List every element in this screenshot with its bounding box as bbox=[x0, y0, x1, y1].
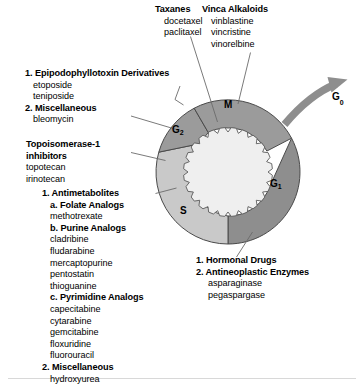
topoisomerase-heading-line1: Topoisomerase-1 bbox=[26, 139, 100, 151]
folate-drug-0: methotrexate bbox=[42, 211, 144, 223]
s-misc-drug-0: hydroxyurea bbox=[42, 374, 144, 385]
vinca-drug-1: vincristine bbox=[202, 27, 268, 39]
leader-vinca bbox=[238, 53, 251, 105]
epipodophyllotoxin-drug-0: etoposide bbox=[25, 80, 169, 92]
phase-label-g1: G1 bbox=[270, 178, 282, 189]
leader-bracket-g2 bbox=[175, 86, 184, 105]
phase-label-g2: G2 bbox=[172, 124, 184, 135]
phase-label-s: S bbox=[180, 205, 187, 216]
callout-taxanes: Taxanes docetaxel paclitaxel bbox=[155, 4, 202, 39]
enzyme-drug-0: asparaginase bbox=[196, 278, 309, 290]
purine-analogs-heading: b. Purine Analogs bbox=[42, 223, 144, 235]
pyrimidine-drug-3: floxuridine bbox=[42, 339, 144, 351]
callout-s-phase: 1. Antimetabolites a. Folate Analogs met… bbox=[42, 188, 144, 385]
purine-drug-4: thioguanine bbox=[42, 281, 144, 293]
g2-misc-drug-0: bleomycin bbox=[25, 114, 169, 126]
pyrimidine-drug-2: gemcitabine bbox=[42, 327, 144, 339]
taxanes-drug-1: paclitaxel bbox=[155, 27, 202, 39]
purine-drug-2: mercaptopurine bbox=[42, 258, 144, 270]
g2-misc-heading: 2. Miscellaneous bbox=[25, 103, 169, 115]
antimetabolites-heading: 1. Antimetabolites bbox=[42, 188, 144, 200]
epipodophyllotoxin-heading: 1. Epipodophyllotoxin Derivatives bbox=[25, 68, 169, 80]
vinca-heading: Vinca Alkaloids bbox=[202, 4, 268, 16]
hormonal-drugs-heading: 1. Hormonal Drugs bbox=[196, 255, 309, 267]
vinca-drug-2: vinorelbine bbox=[202, 39, 268, 51]
s-misc-heading: 2. Miscellaneous bbox=[42, 362, 144, 374]
enzyme-drug-1: pegaspargase bbox=[196, 290, 309, 302]
taxanes-drug-0: docetaxel bbox=[155, 16, 202, 28]
epipodophyllotoxin-drug-1: teniposide bbox=[25, 91, 169, 103]
callout-g2-group: 1. Epipodophyllotoxin Derivatives etopos… bbox=[25, 68, 169, 126]
pyrimidine-drug-1: cytarabine bbox=[42, 316, 144, 328]
purine-drug-0: cladribine bbox=[42, 234, 144, 246]
phase-label-g0: G0 bbox=[332, 91, 344, 104]
taxanes-heading: Taxanes bbox=[155, 4, 202, 16]
purine-drug-1: fludarabine bbox=[42, 246, 144, 258]
callout-vinca-alkaloids: Vinca Alkaloids vinblastine vincristine … bbox=[202, 4, 268, 50]
topoisomerase-drug-0: topotecan bbox=[26, 162, 100, 174]
vinca-drug-0: vinblastine bbox=[202, 16, 268, 28]
phase-label-m: M bbox=[224, 99, 232, 110]
pyrimidine-drug-4: fluorouracil bbox=[42, 350, 144, 362]
topoisomerase-drug-1: irinotecan bbox=[26, 174, 100, 186]
folate-analogs-heading: a. Folate Analogs bbox=[42, 200, 144, 212]
topoisomerase-heading-line2: inhibitors bbox=[26, 151, 100, 163]
antineoplastic-enzymes-heading: 2. Antineoplastic Enzymes bbox=[196, 267, 309, 279]
callout-g1-phase: 1. Hormonal Drugs 2. Antineoplastic Enzy… bbox=[196, 255, 309, 301]
pyrimidine-analogs-heading: c. Pyrimidine Analogs bbox=[42, 292, 144, 304]
callout-topoisomerase: Topoisomerase-1 inhibitors topotecan iri… bbox=[26, 139, 100, 185]
pyrimidine-drug-0: capecitabine bbox=[42, 304, 144, 316]
purine-drug-3: pentostatin bbox=[42, 269, 144, 281]
